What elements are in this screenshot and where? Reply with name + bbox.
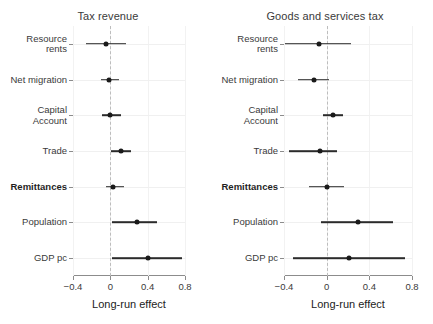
y-gridline [284,187,412,188]
y-category-label-population: Population [0,217,67,228]
x-tick-mark [185,276,186,280]
estimate-point [317,41,322,46]
estimate-point [107,77,112,82]
y-gridline [73,187,185,188]
y-category-label-capital-account: Capital Account [0,105,67,126]
x-tick-mark [73,276,74,280]
y-category-label-trade: Trade [206,146,278,157]
y-tick-mark [69,258,73,259]
x-gridline [185,26,186,276]
y-category-label-gdp-pc: GDP pc [0,253,67,264]
y-tick-mark [69,151,73,152]
x-tick-mark [369,276,370,280]
panel-title-tax-revenue: Tax revenue [18,10,198,22]
y-tick-mark [69,222,73,223]
estimate-point [108,113,113,118]
y-category-label-capital-account: Capital Account [206,105,278,126]
panel-tax-revenue: Tax revenue Long-run effect −0.400.40.8R… [0,0,217,324]
estimate-point [145,256,150,261]
x-tick-label: −0.4 [275,281,294,292]
x-tick-label: 0 [108,281,113,292]
y-tick-mark [280,151,284,152]
estimate-point [347,256,352,261]
y-category-label-resource-rents: Resource rents [206,33,278,54]
coefficient-plot-figure: Tax revenue Long-run effect −0.400.40.8R… [0,0,433,324]
estimate-point [355,220,360,225]
panel-goods-and-services-tax: Goods and services tax Long-run effect −… [217,0,433,324]
estimate-point [111,184,116,189]
x-tick-label: 0 [324,281,329,292]
y-tick-mark [69,44,73,45]
estimate-point [331,113,336,118]
x-tick-label: −0.4 [64,281,83,292]
x-tick-label: 0.4 [363,281,376,292]
y-tick-mark [280,187,284,188]
x-tick-mark [412,276,413,280]
y-category-label-remittances: Remittances [0,181,67,192]
y-tick-mark [280,222,284,223]
y-category-label-net-migration: Net migration [0,74,67,85]
x-tick-label: 0.4 [141,281,154,292]
y-gridline [73,115,185,116]
estimate-point [324,184,329,189]
x-tick-label: 0.8 [405,281,418,292]
y-gridline [73,80,185,81]
estimate-point [135,220,140,225]
panel-title-goods-and-services-tax: Goods and services tax [225,10,425,22]
y-gridline [284,115,412,116]
y-category-label-remittances: Remittances [206,181,278,192]
x-axis-title-goods-and-services-tax: Long-run effect [284,298,412,310]
y-tick-mark [280,80,284,81]
estimate-point [318,149,323,154]
y-tick-mark [280,258,284,259]
estimate-point [118,149,123,154]
y-tick-mark [69,187,73,188]
x-axis-spine [73,275,185,276]
estimate-point [103,41,108,46]
x-tick-mark [284,276,285,280]
plot-area-goods-and-services-tax: Long-run effect −0.400.40.8Resource rent… [284,26,412,276]
y-tick-mark [69,80,73,81]
y-tick-mark [69,115,73,116]
x-axis-spine [284,275,412,276]
x-tick-mark [148,276,149,280]
y-category-label-trade: Trade [0,146,67,157]
x-gridline [412,26,413,276]
x-tick-label: 0.8 [178,281,191,292]
confidence-interval-bar [289,150,337,152]
plot-area-tax-revenue: Long-run effect −0.400.40.8Resource rent… [73,26,185,276]
y-tick-mark [280,44,284,45]
y-category-label-population: Population [206,217,278,228]
x-axis-title-tax-revenue: Long-run effect [73,298,185,310]
y-category-label-gdp-pc: GDP pc [206,253,278,264]
y-category-label-net-migration: Net migration [206,74,278,85]
y-category-label-resource-rents: Resource rents [0,33,67,54]
estimate-point [311,77,316,82]
y-tick-mark [280,115,284,116]
x-tick-mark [327,276,328,280]
x-tick-mark [110,276,111,280]
